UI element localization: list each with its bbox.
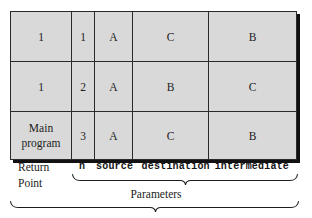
cell-return-point: Main program — [11, 112, 72, 160]
cell-return-point: 1 — [11, 62, 72, 112]
return-point-label: Return Point — [18, 160, 74, 191]
cell-n: 3 — [72, 112, 95, 160]
cell-source: A — [95, 112, 133, 160]
cell-intermediate: B — [209, 112, 297, 160]
parameter-name-labels: n source destination intermediate — [72, 161, 298, 172]
cell-return-point: 1 — [11, 12, 72, 62]
param-label-intermediate: intermediate — [215, 161, 298, 172]
table-row: 1 1 A C B — [11, 12, 297, 62]
activation-record-brace-path — [11, 202, 299, 213]
cell-intermediate: C — [209, 62, 297, 112]
cell-n: 1 — [72, 12, 95, 62]
param-label-n: n — [72, 161, 92, 172]
activation-record-brace — [0, 199, 312, 215]
parameters-label: Parameters — [0, 188, 312, 200]
table-row: 1 2 A B C — [11, 62, 297, 112]
cell-destination: C — [133, 112, 209, 160]
stack-frame-table: 1 1 A C B 1 2 A B C Main program 3 A C B — [10, 11, 297, 160]
cell-source: A — [95, 12, 133, 62]
table-row: Main program 3 A C B — [11, 112, 297, 160]
param-label-destination: destination — [137, 161, 215, 172]
param-label-source: source — [92, 161, 136, 172]
cell-intermediate: B — [209, 12, 297, 62]
cell-source: A — [95, 62, 133, 112]
cell-destination: B — [133, 62, 209, 112]
cell-return-point-line1: Main — [11, 121, 71, 135]
cell-return-point-line2: program — [11, 136, 71, 150]
parameters-brace-path — [73, 175, 298, 186]
return-point-label-line1: Return — [18, 160, 74, 176]
cell-n: 2 — [72, 62, 95, 112]
cell-destination: C — [133, 12, 209, 62]
